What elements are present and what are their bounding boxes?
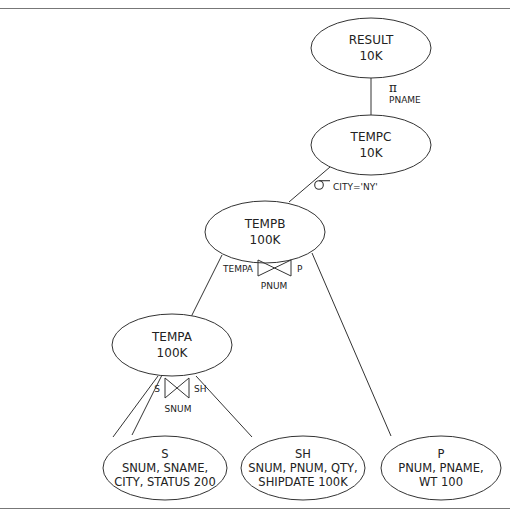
join-op-tempb: TEMPA P PNUM	[222, 260, 303, 291]
node-tempc: TEMPC 10K	[311, 115, 431, 175]
node-sh-label: SH	[295, 447, 311, 461]
join-right-operand: P	[297, 264, 303, 274]
node-tempc-size: 10K	[359, 146, 383, 160]
pi-icon: π	[389, 81, 397, 95]
node-result-size: 10K	[359, 49, 383, 63]
sigma-icon	[315, 181, 330, 190]
join-left-operand: TEMPA	[222, 264, 254, 274]
join-left-operand: S	[154, 384, 160, 394]
bowtie-join-icon	[165, 378, 189, 398]
node-s: S SNUM, SNAME, CITY, STATUS 200	[103, 436, 227, 500]
node-p: P PNUM, PNAME, WT 100	[381, 436, 501, 500]
join-attribute: PNUM	[261, 281, 288, 291]
node-tempb-size: 100K	[250, 233, 282, 247]
join-op-tempa: S SH SNUM	[154, 378, 206, 414]
node-sh: SH SNUM, PNUM, QTY, SHIPDATE 100K	[241, 436, 365, 500]
node-tempa: TEMPA 100K	[112, 314, 232, 376]
node-tempa-label: TEMPA	[151, 330, 193, 344]
projection-attribute: PNAME	[389, 95, 421, 105]
node-s-attrs-size: CITY, STATUS 200	[114, 475, 216, 489]
join-attribute: SNUM	[165, 404, 192, 414]
node-tempb-label: TEMPB	[244, 217, 286, 231]
node-result: RESULT 10K	[311, 18, 431, 78]
node-s-label: S	[161, 447, 168, 461]
edge-tempb-p	[312, 253, 391, 436]
node-s-attrs: SNUM, SNAME,	[122, 461, 208, 475]
node-p-label: P	[438, 447, 445, 461]
selection-op: CITY='NY'	[315, 181, 378, 192]
node-sh-attrs-size: SHIPDATE 100K	[258, 475, 348, 489]
projection-op: π PNAME	[389, 81, 421, 105]
node-tempb: TEMPB 100K	[205, 201, 325, 263]
node-tempa-size: 100K	[157, 346, 189, 360]
query-tree-diagram: RESULT 10K π PNAME TEMPC 10K CITY='NY' T…	[0, 0, 522, 514]
node-tempc-label: TEMPC	[350, 130, 392, 144]
edge-tempc-tempb	[289, 167, 330, 202]
node-p-attrs: PNUM, PNAME,	[398, 461, 483, 475]
node-sh-attrs: SNUM, PNUM, QTY,	[248, 461, 358, 475]
node-p-attrs-size: WT 100	[419, 475, 463, 489]
selection-condition: CITY='NY'	[333, 182, 378, 192]
node-result-label: RESULT	[349, 33, 394, 47]
join-right-operand: SH	[194, 384, 206, 394]
